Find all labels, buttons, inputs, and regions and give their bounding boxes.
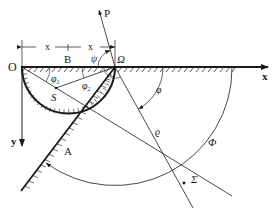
label-phi2: φ2 xyxy=(82,80,91,92)
label-rho: ϱ xyxy=(155,126,160,137)
label-P: P xyxy=(104,7,110,19)
line-O-S-Sigma xyxy=(22,67,232,196)
phi2-arc xyxy=(82,67,84,78)
psi-arc xyxy=(98,51,110,67)
label-phi: φ xyxy=(156,84,162,95)
label-origin: O xyxy=(8,60,17,74)
label-B: B xyxy=(64,53,71,65)
label-Phi: Φ xyxy=(208,136,217,148)
inclined-plane xyxy=(21,67,115,191)
label-Omega: Ω xyxy=(117,53,125,65)
dim-label-x2: x xyxy=(88,41,93,52)
dim-label-x1: x xyxy=(45,41,50,52)
semicircle-hatching xyxy=(23,74,112,114)
y-axis-label: y xyxy=(11,135,17,147)
label-A: A xyxy=(64,145,72,157)
Phi-arc xyxy=(46,67,232,186)
label-Sigma: Σ xyxy=(190,173,198,185)
label-S: S xyxy=(51,91,57,103)
label-phi1: φ1 xyxy=(51,73,60,85)
point-Sigma xyxy=(183,182,186,185)
point-S xyxy=(55,87,58,90)
x-axis-label: x xyxy=(262,70,268,82)
line-rho xyxy=(115,67,193,208)
diagram-canvas: x x xyxy=(0,0,277,214)
semicircle xyxy=(22,67,115,114)
point-O xyxy=(21,66,23,68)
label-psi: ψ xyxy=(91,53,98,64)
